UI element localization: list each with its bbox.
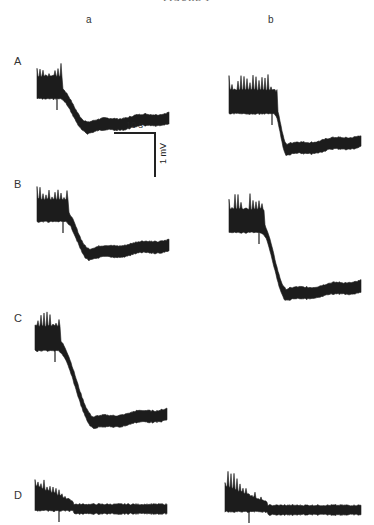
trace-D-a: [35, 480, 167, 522]
trace-B-a: [37, 186, 169, 260]
scale-bar-time-label: 10 s: [126, 120, 143, 130]
scale-bar: [114, 132, 155, 177]
trace-D-b: [225, 471, 361, 523]
trace-layer: [35, 63, 361, 523]
traces-canvas: [0, 0, 374, 525]
scale-bar-voltage-label: 1 mV: [158, 143, 168, 164]
trace-C-a: [35, 312, 167, 429]
trace-B-b: [229, 194, 361, 301]
trace-A-a: [37, 63, 169, 134]
trace-A-b: [229, 74, 361, 155]
